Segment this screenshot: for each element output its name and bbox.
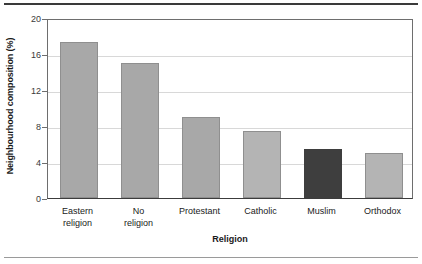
top-divider-rule [4, 3, 418, 5]
bar-muslim [304, 149, 342, 198]
x-axis-label-protestant: Protestant [169, 206, 230, 218]
y-axis-tick-mark [42, 127, 47, 128]
bar-eastern-religion [60, 42, 98, 198]
chart-figure: Neighbourhood composition (%) 048121620 … [0, 0, 422, 264]
y-axis-tick-label: 4 [15, 158, 41, 168]
x-axis-title: Religion [47, 234, 413, 244]
x-axis-label-catholic: Catholic [230, 206, 291, 218]
bar-orthodox [365, 153, 403, 198]
bar-protestant [182, 117, 220, 198]
bottom-divider-rule [4, 257, 418, 258]
y-axis-tick-label: 8 [15, 122, 41, 132]
y-axis-tick-mark [42, 55, 47, 56]
y-axis-tick-label: 16 [15, 50, 41, 60]
x-axis-label-eastern-religion: Eastern religion [47, 206, 108, 229]
y-axis-tick-mark [42, 163, 47, 164]
bars-group [48, 20, 412, 198]
bar-no-religion [121, 63, 159, 198]
y-axis-tick-label: 12 [15, 86, 41, 96]
y-axis-tick-label: 0 [15, 194, 41, 204]
y-axis-title: Neighbourhood composition (%) [2, 6, 18, 206]
y-axis-tick-label: 20 [15, 14, 41, 24]
x-axis-label-muslim: Muslim [291, 206, 352, 218]
bar-catholic [243, 131, 281, 198]
y-axis-tick-mark [42, 199, 47, 200]
x-axis-label-no-religion: No religion [108, 206, 169, 229]
x-axis-label-orthodox: Orthodox [352, 206, 413, 218]
y-axis-tick-mark [42, 19, 47, 20]
plot-area [47, 19, 413, 199]
y-axis-tick-mark [42, 91, 47, 92]
